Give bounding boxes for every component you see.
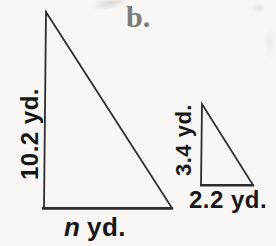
base-variable-n: n <box>64 212 80 242</box>
small-triangle-height-label: 3.4 yd. <box>172 98 196 182</box>
figure-canvas: b. 10.2 yd. 3.4 yd. nyd. 2.2 yd. <box>0 0 276 246</box>
base-unit: yd. <box>87 212 126 242</box>
large-triangle-base-label: nyd. <box>45 213 145 241</box>
part-label: b. <box>126 1 150 33</box>
large-triangle <box>44 12 172 208</box>
small-triangle <box>201 104 253 185</box>
small-triangle-base-label: 2.2 yd. <box>182 187 274 213</box>
large-triangle-height-label: 10.2 yd. <box>17 74 43 194</box>
